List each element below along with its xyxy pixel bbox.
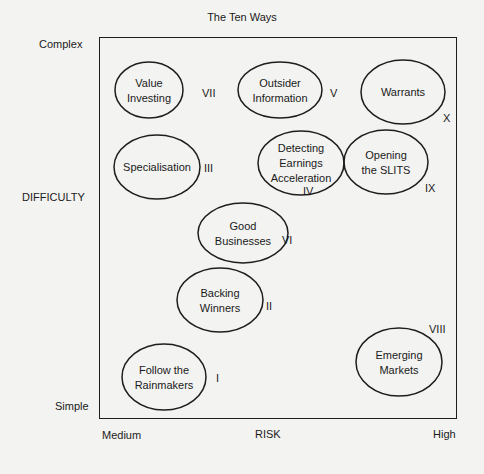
way-numeral: III	[204, 162, 213, 174]
way-node: WarrantsX	[361, 60, 451, 124]
way-label: Rainmakers	[135, 379, 194, 391]
way-oval	[344, 130, 428, 194]
way-label: Businesses	[215, 235, 272, 247]
way-label: Value	[135, 77, 162, 89]
way-numeral: VII	[202, 87, 215, 99]
way-oval	[115, 62, 183, 118]
way-label: Specialisation	[123, 161, 191, 173]
way-label: the SLITS	[362, 164, 411, 176]
way-label: Markets	[379, 364, 419, 376]
way-label: Information	[252, 92, 307, 104]
way-numeral: IV	[303, 185, 314, 197]
way-label: Emerging	[375, 349, 422, 361]
way-node: BackingWinnersII	[177, 268, 272, 332]
way-numeral: VI	[282, 234, 292, 246]
way-numeral: VIII	[429, 323, 446, 335]
way-label: Opening	[365, 149, 407, 161]
way-node: Openingthe SLITSIX	[344, 130, 436, 194]
way-label: Follow the	[139, 364, 189, 376]
way-label: Acceleration	[271, 172, 332, 184]
way-node: GoodBusinessesVI	[198, 203, 292, 263]
way-label: Investing	[127, 92, 171, 104]
way-numeral: IX	[425, 182, 436, 194]
way-label: Outsider	[259, 77, 301, 89]
way-label: Backing	[200, 287, 239, 299]
way-label: Earnings	[279, 157, 323, 169]
way-oval	[177, 268, 263, 332]
way-oval	[238, 62, 322, 118]
way-label: Winners	[200, 302, 241, 314]
way-numeral: X	[443, 112, 451, 124]
ways-layer: Follow theRainmakersIBackingWinnersIISpe…	[0, 0, 484, 474]
way-numeral: V	[330, 87, 338, 99]
way-oval	[198, 203, 288, 263]
way-node: SpecialisationIII	[114, 135, 213, 199]
way-oval	[356, 328, 442, 396]
way-numeral: I	[216, 372, 219, 384]
way-oval	[122, 344, 206, 410]
way-numeral: II	[266, 300, 272, 312]
way-node: Follow theRainmakersI	[122, 344, 219, 410]
way-label: Warrants	[381, 86, 426, 98]
way-node: ValueInvestingVII	[115, 62, 215, 118]
way-node: EmergingMarketsVIII	[356, 323, 446, 396]
way-node: OutsiderInformationV	[238, 62, 338, 118]
way-label: Detecting	[278, 142, 324, 154]
way-node: DetectingEarningsAccelerationIV	[258, 131, 344, 197]
way-label: Good	[230, 220, 257, 232]
